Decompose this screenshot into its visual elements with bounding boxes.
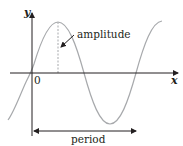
origin-label: 0 — [34, 74, 41, 86]
y-axis-label: y — [23, 6, 32, 19]
x-axis-label: x — [170, 74, 178, 87]
amplitude-label: amplitude — [77, 28, 131, 40]
period-label: period — [71, 133, 106, 145]
amplitude-arrow — [61, 35, 74, 47]
sine-wave-diagram: y x 0 amplitude period — [0, 0, 183, 146]
period-arrow-left-head — [33, 128, 39, 134]
